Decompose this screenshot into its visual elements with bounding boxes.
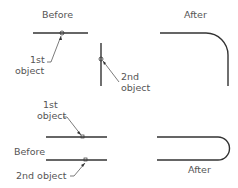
arrowhead [77,131,81,135]
top-second-object-label-1: 2nd [121,71,139,82]
filleted-parallel-result [157,137,230,160]
bottom-after-label: After [188,164,211,175]
leader-line [103,61,119,82]
top-before-label: Before [42,9,73,20]
filleted-corner-result [160,33,228,86]
top-second-object-label-2: object [121,82,151,93]
top-first-object-label-2: object [15,65,45,76]
top-after-label: After [184,9,207,20]
bottom-before-label: Before [14,146,45,157]
arrowhead [81,163,85,167]
top-first-object-label-1: 1st [30,54,45,65]
bottom-first-object-label-2: object [37,110,67,121]
bottom-first-object-label-1: 1st [43,99,58,110]
leader-line [47,36,61,62]
bottom-second-object-label: 2nd object [16,170,67,181]
fillet-diagram: Before 1st object 2nd object After 1st o… [0,0,238,188]
